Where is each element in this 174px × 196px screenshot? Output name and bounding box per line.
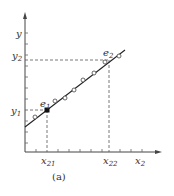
y2-label: y2 (11, 50, 23, 63)
e1-label: e1 (40, 98, 50, 111)
figure-caption: (a) (52, 171, 66, 182)
x-axis-arrow-icon (155, 150, 162, 154)
y-axis-arrow-icon (23, 12, 27, 19)
guide-lines (25, 60, 109, 152)
e2-label: e2 (103, 47, 114, 60)
regression-diagram: y y2 y1 e1 e2 x21 x22 x2 (a) (0, 0, 174, 196)
y1-label: y1 (10, 105, 21, 118)
x21-label: x21 (41, 155, 56, 168)
y-axis-label: y (15, 28, 22, 39)
x2-axis-label: x2 (135, 155, 146, 168)
x22-label: x22 (103, 155, 118, 168)
